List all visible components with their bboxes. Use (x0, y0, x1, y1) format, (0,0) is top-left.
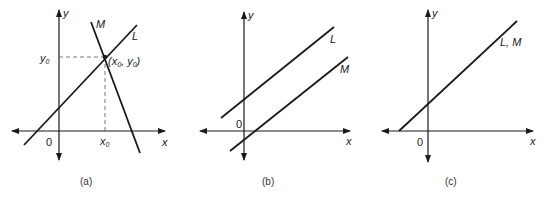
panel-b: y x 0 L M (b) (200, 9, 352, 187)
diagram-canvas: y x 0 M L y0 x0 (x0, y0) (a) y x 0 L M (… (0, 0, 547, 200)
caption-a: (a) (80, 176, 92, 187)
line-M-label: M (340, 63, 350, 75)
line-LM-label: L, M (500, 36, 522, 48)
caption-c: (c) (445, 176, 457, 187)
line-M (230, 57, 348, 151)
intersection-point-label: (x0, y0) (108, 55, 141, 68)
y0-label: y0 (39, 52, 50, 65)
x0-label: x0 (99, 135, 110, 148)
panel-c: y x 0 L, M (c) (382, 7, 536, 187)
x-axis-label: x (529, 135, 536, 147)
line-L (221, 27, 334, 118)
x-axis-label: x (345, 135, 352, 147)
origin-label: 0 (46, 136, 52, 148)
y-axis-label: y (247, 9, 255, 21)
y-axis-label: y (62, 7, 70, 19)
line-L-label: L (132, 30, 138, 42)
y-axis-label: y (431, 7, 439, 19)
caption-b: (b) (262, 176, 274, 187)
line-M-label: M (96, 18, 106, 30)
panel-a: y x 0 M L y0 x0 (x0, y0) (a) (12, 7, 168, 187)
line-L (24, 25, 137, 145)
origin-label: 0 (417, 136, 423, 148)
origin-label: 0 (236, 118, 242, 130)
x-axis-label: x (161, 136, 168, 148)
line-L-label: L (330, 33, 336, 45)
intersection-point (103, 55, 107, 59)
